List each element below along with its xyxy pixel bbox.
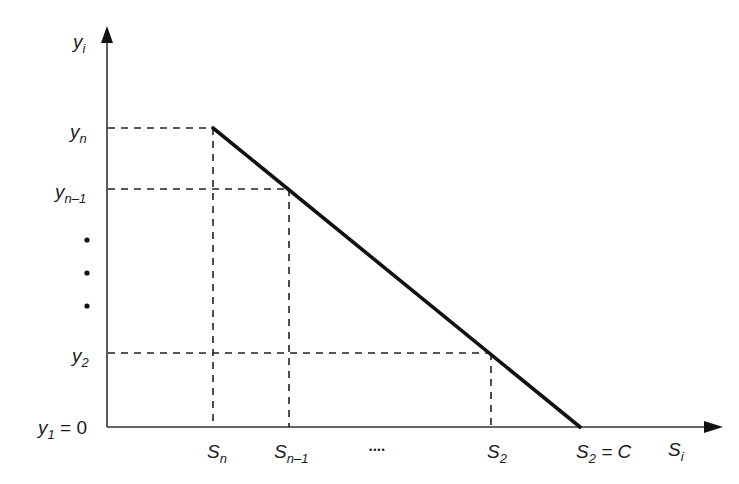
decreasing-line [213,128,580,427]
x-axis [107,421,723,433]
y-axis-label: yi [71,31,87,56]
diagram-canvas: yi Si yn yn–1 y2 y1 = 0 Sn Sn–1 •••• S2 … [0,0,739,484]
x-ellipsis: •••• [369,445,386,455]
x-tick-s-equals-c: S2 = C [576,441,632,466]
y-tick-yn-minus-1: yn–1 [53,181,86,206]
x-axis-arrow-icon [704,421,723,433]
x-tick-sn: Sn [207,441,227,466]
x-tick-sn-minus-1: Sn–1 [274,441,308,466]
y-tick-y1-zero: y1 = 0 [36,417,87,442]
y-axis-arrow-icon [101,26,113,43]
x-axis-label: Si [668,439,685,464]
x-tick-s2: S2 [487,441,508,466]
y-axis [101,26,113,427]
y-ellipsis-dots [84,237,89,308]
dashed-guides [108,128,491,427]
y-tick-yn: yn [68,121,87,146]
y-tick-y2: y2 [70,345,90,370]
